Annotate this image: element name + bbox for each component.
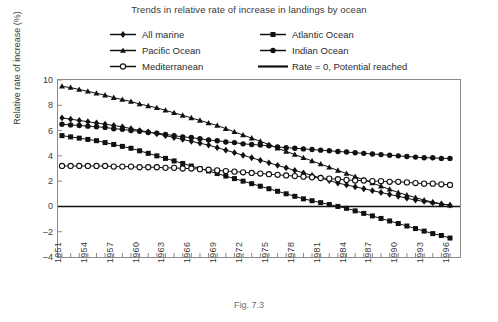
- data-point-indian-ocean: [318, 147, 323, 152]
- data-point-indian-ocean: [171, 133, 176, 138]
- data-point-all-marine: [240, 152, 245, 159]
- plot-svg: [58, 80, 460, 257]
- data-point-indian-ocean: [111, 126, 116, 131]
- data-point-mediterranean: [120, 164, 125, 169]
- y-tick-label: –4: [43, 252, 53, 262]
- data-point-atlantic-ocean: [180, 161, 185, 166]
- legend-item-indian-ocean: Indian Ocean: [258, 45, 448, 56]
- data-point-indian-ocean: [249, 142, 254, 147]
- x-tick-label: 1954: [79, 242, 89, 263]
- figure-container: Trends in relative rate of increase in l…: [0, 0, 498, 322]
- data-point-mediterranean: [137, 165, 142, 170]
- data-point-atlantic-ocean: [318, 200, 323, 205]
- chart-title: Trends in relative rate of increase in l…: [0, 4, 498, 15]
- data-point-mediterranean: [223, 168, 228, 173]
- data-point-indian-ocean: [430, 155, 435, 160]
- data-point-mediterranean: [327, 176, 332, 181]
- data-point-indian-ocean: [413, 154, 418, 159]
- legend-marker-triangle-icon: [108, 45, 138, 56]
- data-point-pacific-ocean: [59, 83, 65, 88]
- data-point-mediterranean: [439, 182, 444, 187]
- data-point-all-marine: [266, 159, 271, 166]
- x-tick-label: 1981: [312, 242, 322, 263]
- data-point-indian-ocean: [68, 122, 73, 127]
- data-point-all-marine: [361, 185, 366, 192]
- data-point-mediterranean: [284, 173, 289, 178]
- data-point-mediterranean: [68, 163, 73, 168]
- data-point-all-marine: [284, 164, 289, 171]
- x-tick-label: 1960: [131, 242, 141, 263]
- data-point-atlantic-ocean: [128, 146, 133, 151]
- data-point-mediterranean: [206, 167, 211, 172]
- x-tick-label: 1996: [441, 242, 451, 263]
- data-point-atlantic-ocean: [154, 153, 159, 158]
- data-point-indian-ocean: [59, 122, 64, 127]
- data-point-mediterranean: [240, 170, 245, 175]
- data-point-mediterranean: [318, 175, 323, 180]
- legend-label: Mediterranean: [142, 61, 203, 72]
- data-point-all-marine: [378, 189, 383, 196]
- data-point-mediterranean: [335, 177, 340, 182]
- legend-marker-circle-icon: [258, 45, 288, 56]
- y-tick-label: 10: [43, 75, 53, 85]
- data-point-indian-ocean: [197, 136, 202, 141]
- data-point-indian-ocean: [404, 154, 409, 159]
- data-point-atlantic-ocean: [172, 158, 177, 163]
- data-point-mediterranean: [266, 172, 271, 177]
- data-point-atlantic-ocean: [103, 140, 108, 145]
- data-point-atlantic-ocean: [404, 224, 409, 229]
- data-point-all-marine: [232, 149, 237, 156]
- data-point-atlantic-ocean: [137, 148, 142, 153]
- data-point-indian-ocean: [94, 124, 99, 129]
- data-point-all-marine: [258, 157, 263, 164]
- x-tick-label: 1975: [260, 242, 270, 263]
- data-point-all-marine: [370, 187, 375, 194]
- legend-item-pacific-ocean: Pacific Ocean: [108, 45, 258, 56]
- data-point-atlantic-ocean: [301, 196, 306, 201]
- legend-label: Pacific Ocean: [142, 45, 201, 56]
- data-point-indian-ocean: [232, 140, 237, 145]
- data-point-atlantic-ocean: [120, 144, 125, 149]
- y-tick-label: 4: [48, 151, 53, 161]
- data-point-atlantic-ocean: [258, 184, 263, 189]
- data-point-all-marine: [292, 167, 297, 174]
- data-point-indian-ocean: [258, 142, 263, 147]
- data-point-mediterranean: [258, 171, 263, 176]
- x-tick-label: 1993: [415, 242, 425, 263]
- data-point-all-marine: [387, 191, 392, 198]
- legend-label: Atlantic Ocean: [292, 29, 354, 40]
- data-point-indian-ocean: [292, 146, 297, 151]
- x-tick-label: 1957: [105, 242, 115, 263]
- data-point-mediterranean: [387, 179, 392, 184]
- data-point-mediterranean: [215, 168, 220, 173]
- data-point-indian-ocean: [102, 125, 107, 130]
- data-point-atlantic-ocean: [94, 138, 99, 143]
- y-tick-label: –2: [43, 227, 53, 237]
- x-tick-label: 1951: [53, 242, 63, 263]
- data-point-indian-ocean: [396, 153, 401, 158]
- legend-marker-open-circle-icon: [108, 61, 138, 72]
- data-point-indian-ocean: [283, 145, 288, 150]
- data-point-atlantic-ocean: [284, 191, 289, 196]
- y-tick-label: 6: [48, 126, 53, 136]
- data-point-indian-ocean: [85, 123, 90, 128]
- data-point-mediterranean: [396, 179, 401, 184]
- legend-item-zero-line: Rate = 0, Potential reached: [258, 61, 448, 72]
- data-point-indian-ocean: [387, 153, 392, 158]
- legend-label: Indian Ocean: [292, 45, 349, 56]
- data-point-all-marine: [68, 116, 73, 123]
- y-tick-label: 2: [48, 176, 53, 186]
- legend-item-all-marine: All marine: [108, 29, 258, 40]
- x-tick-label: 1987: [363, 242, 373, 263]
- data-point-indian-ocean: [439, 156, 444, 161]
- data-point-indian-ocean: [120, 127, 125, 132]
- data-point-mediterranean: [361, 178, 366, 183]
- data-point-indian-ocean: [77, 123, 82, 128]
- data-point-mediterranean: [146, 165, 151, 170]
- data-point-atlantic-ocean: [292, 194, 297, 199]
- data-point-indian-ocean: [378, 152, 383, 157]
- data-point-mediterranean: [163, 165, 168, 170]
- x-tick-label: 1969: [208, 242, 218, 263]
- x-tick-label: 1990: [389, 242, 399, 263]
- data-point-indian-ocean: [275, 144, 280, 149]
